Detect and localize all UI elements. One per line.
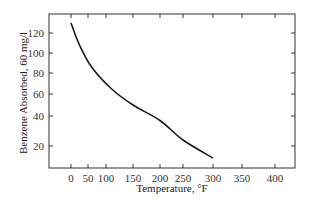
data-series-line (71, 23, 213, 158)
y-tick-label: 100 (28, 47, 45, 59)
x-tick-label: 0 (68, 172, 74, 184)
y-axis-ticks: 20406080100120 (28, 27, 296, 152)
y-tick-label: 120 (28, 27, 45, 39)
x-tick-label: 400 (267, 172, 284, 184)
plot-frame (49, 14, 295, 168)
x-axis-label: Temperature, °F (136, 182, 207, 194)
x-tick-label: 100 (98, 172, 115, 184)
y-tick-label: 80 (33, 67, 45, 79)
y-tick-label: 20 (33, 140, 45, 152)
x-axis-ticks: 050100150200250300350400 (68, 14, 284, 184)
x-tick-label: 350 (234, 172, 251, 184)
y-tick-label: 40 (33, 110, 45, 122)
line-chart: 050100150200250300350400 20406080100120 … (0, 0, 311, 208)
x-tick-label: 50 (83, 172, 95, 184)
y-tick-label: 60 (33, 88, 45, 100)
y-axis-label: Benzene Absorbed, 60 mg/l (17, 32, 29, 154)
